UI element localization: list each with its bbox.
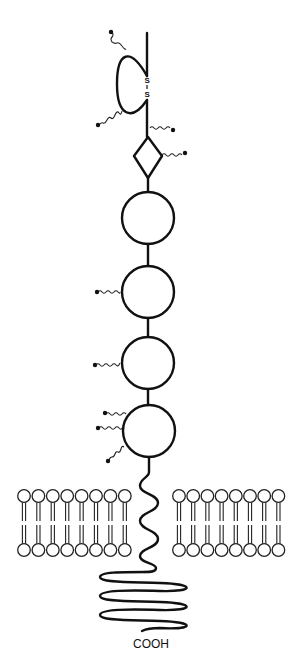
phospholipid — [119, 490, 132, 557]
glycan-chain — [96, 111, 122, 127]
glycan-chain — [93, 363, 120, 367]
lipid-head — [90, 490, 103, 503]
lipid-head — [90, 544, 103, 557]
c-terminus-label: COOH — [133, 637, 169, 651]
n-terminal-loop: S S — [117, 33, 151, 137]
disulfide-s-bottom: S — [145, 90, 151, 99]
lipid-head — [244, 490, 257, 503]
glycan-chain — [106, 446, 124, 463]
glycan-chain — [162, 151, 187, 156]
phospholipid — [61, 490, 74, 557]
phospholipid — [258, 490, 271, 557]
phospholipid — [244, 490, 257, 557]
lipid-bilayer-right — [173, 490, 285, 557]
lipid-head — [18, 544, 31, 557]
glycan-chain — [109, 30, 126, 49]
lipid-head — [119, 490, 132, 503]
lipid-head — [230, 544, 243, 557]
disulfide-s-top: S — [145, 76, 151, 85]
lipid-head — [173, 544, 186, 557]
lipid-head — [230, 490, 243, 503]
phospholipid — [230, 490, 243, 557]
phospholipid — [90, 490, 103, 557]
lipid-head — [258, 544, 271, 557]
lipid-bilayer-left — [18, 490, 131, 557]
lipid-head — [201, 544, 214, 557]
lipid-head — [173, 490, 186, 503]
glycan-chain — [103, 411, 126, 415]
lipid-head — [272, 490, 285, 503]
phospholipid — [187, 490, 200, 557]
lipid-head — [187, 490, 200, 503]
phospholipid — [32, 490, 45, 557]
lipid-head — [61, 544, 74, 557]
phospholipid — [173, 490, 186, 557]
globular-domain-1 — [122, 192, 174, 244]
lipid-head — [47, 490, 60, 503]
c-terminal-coil — [100, 572, 187, 631]
phospholipid — [272, 490, 285, 557]
phospholipid — [104, 490, 117, 557]
lipid-head — [75, 544, 88, 557]
lipid-head — [215, 544, 228, 557]
globular-domain-4 — [123, 405, 175, 457]
phospholipid — [215, 490, 228, 557]
lipid-head — [201, 490, 214, 503]
lipid-head — [61, 490, 74, 503]
phospholipid — [75, 490, 88, 557]
glycan-chain — [95, 290, 120, 294]
lipid-head — [47, 544, 60, 557]
transmembrane-segment — [140, 457, 158, 572]
phospholipid — [201, 490, 214, 557]
phospholipid — [47, 490, 60, 557]
glycan-chain — [96, 426, 122, 430]
lipid-head — [104, 490, 117, 503]
diamond-domain — [134, 137, 162, 191]
lipid-head — [187, 544, 200, 557]
glycan-chain — [150, 127, 175, 132]
lipid-head — [32, 490, 45, 503]
lipid-head — [119, 544, 132, 557]
globular-domain-3 — [122, 337, 174, 389]
lipid-head — [272, 544, 285, 557]
lipid-head — [244, 544, 257, 557]
lipid-head — [215, 490, 228, 503]
globular-domain-2 — [122, 266, 174, 318]
glycoprotein-diagram: S S — [0, 0, 301, 666]
lipid-head — [104, 544, 117, 557]
lipid-head — [18, 490, 31, 503]
phospholipid — [18, 490, 31, 557]
lipid-head — [258, 490, 271, 503]
lipid-head — [32, 544, 45, 557]
lipid-head — [75, 490, 88, 503]
